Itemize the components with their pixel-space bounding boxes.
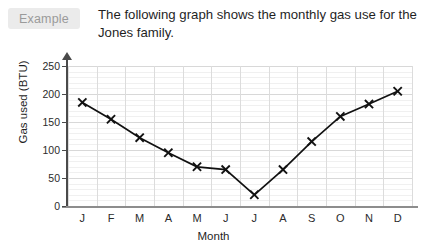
example-problem-card: Example The following graph shows the mo… [0, 0, 427, 252]
data-line [82, 91, 397, 195]
data-point-marker [279, 166, 287, 174]
data-point-marker [394, 87, 402, 95]
data-point-marker [336, 112, 344, 120]
data-point-marker [78, 98, 86, 106]
data-point-marker [136, 134, 144, 142]
gas-use-line-chart: 050100150200250 JFMAMJJASOND Gas used (B… [0, 0, 427, 252]
data-point-marker [250, 191, 258, 199]
data-point-marker [308, 138, 316, 146]
data-point-marker [107, 115, 115, 123]
data-point-marker [164, 149, 172, 157]
data-series-layer [0, 0, 427, 252]
data-point-marker [365, 100, 373, 108]
